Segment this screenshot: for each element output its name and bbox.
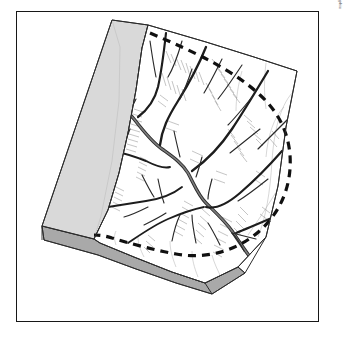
block-diagram	[16, 11, 319, 322]
margin-caption: Strophic	[338, 0, 342, 9]
